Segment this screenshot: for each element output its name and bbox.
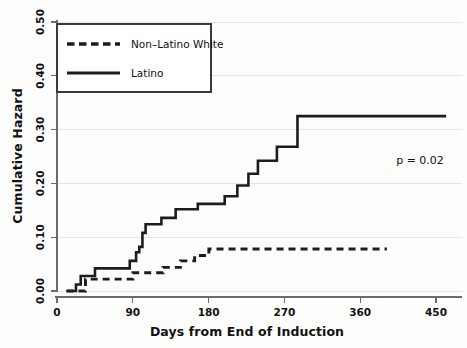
legend-box [57, 24, 211, 92]
y-tick-label-0.00: 0.00 [34, 278, 46, 304]
chart-canvas: 0.50 0.40 0.30 0.20 0.10 0.00 Cumulative… [0, 0, 467, 348]
y-tick-label-0.30: 0.30 [34, 117, 46, 143]
y-tick-label-0.40: 0.40 [34, 63, 46, 89]
x-axis-title: Days from End of Induction [150, 324, 344, 339]
legend-label-non-latino-white: Non–Latino White [131, 38, 223, 50]
series-line-latino [66, 116, 446, 291]
y-tick-label-0.10: 0.10 [34, 224, 46, 250]
x-tick-label-90: 90 [125, 306, 140, 318]
x-tick-label-0: 0 [53, 306, 60, 318]
y-tick-label-0.50: 0.50 [34, 9, 46, 35]
x-axis: 0 90 180 270 360 450 Days from End of In… [53, 297, 462, 339]
legend: Non–Latino White Latino [57, 24, 223, 92]
y-axis-title: Cumulative Hazard [10, 88, 25, 223]
series-line-non-latino-white [66, 249, 386, 291]
x-tick-label-450: 450 [425, 306, 447, 318]
legend-label-latino: Latino [131, 67, 163, 79]
x-tick-label-270: 270 [273, 306, 295, 318]
cumulative-hazard-chart: 0.50 0.40 0.30 0.20 0.10 0.00 Cumulative… [0, 0, 467, 348]
p-value-annotation: p = 0.02 [396, 154, 444, 167]
x-tick-label-180: 180 [198, 306, 220, 318]
series-group [66, 116, 446, 291]
y-axis: 0.50 0.40 0.30 0.20 0.10 0.00 Cumulative… [10, 9, 57, 304]
y-tick-label-0.20: 0.20 [34, 170, 46, 196]
x-tick-label-360: 360 [349, 306, 371, 318]
